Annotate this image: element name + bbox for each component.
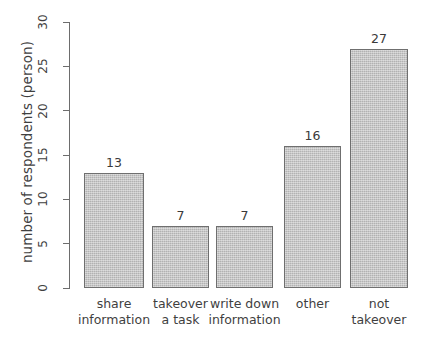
bar	[284, 146, 341, 288]
bar-value-label: 16	[284, 129, 341, 143]
bar-value-label: 27	[350, 32, 408, 46]
bar-value-label: 7	[216, 209, 273, 223]
category-label-line1: not	[336, 296, 422, 312]
plot-area: 13771627	[0, 0, 445, 343]
category-label-line2: information	[202, 312, 287, 328]
bar-value-label: 7	[152, 209, 209, 223]
bar	[84, 173, 144, 288]
bar	[350, 49, 408, 288]
bar-chart-figure: number of respondents (person) 051015202…	[0, 0, 445, 343]
bar-value-label: 13	[84, 156, 144, 170]
bar	[152, 226, 209, 288]
bar	[216, 226, 273, 288]
category-label-line2: takeover	[336, 312, 422, 328]
x-axis-category-label: nottakeover	[336, 296, 422, 328]
